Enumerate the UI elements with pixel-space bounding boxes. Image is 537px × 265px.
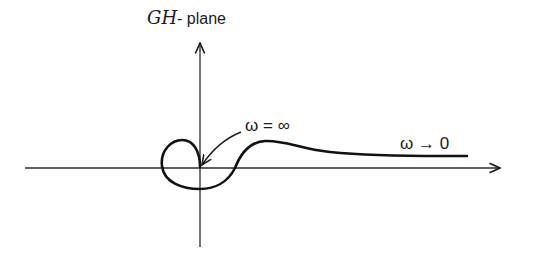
omega-infinity-label: ω = ∞ [245,117,290,134]
omega-infinity-pointer-arrow [202,132,241,165]
plane-title: GH- plane [147,9,226,27]
omega-zero-label: ω → 0 [400,135,449,152]
plane-title-suffix: - plane [177,10,226,27]
plane-title-gh: GH [147,7,177,28]
